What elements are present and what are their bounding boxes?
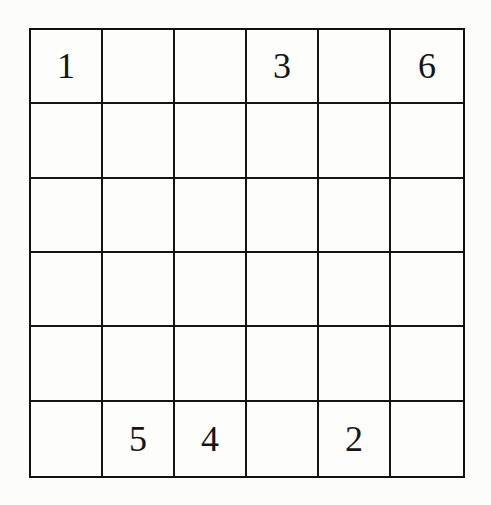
grid-cell-r4-c4[interactable]	[247, 253, 319, 327]
grid-cell-r5-c4[interactable]	[247, 327, 319, 401]
grid-cell-r6-c1[interactable]	[31, 402, 103, 476]
grid-cell-r2-c1[interactable]	[31, 104, 103, 178]
grid-cell-r2-c2[interactable]	[103, 104, 175, 178]
grid-cell-r6-c6[interactable]	[391, 402, 463, 476]
grid-cell-r3-c3[interactable]	[175, 179, 247, 253]
grid-cell-r1-c1[interactable]: 1	[31, 30, 103, 104]
grid-cell-r2-c4[interactable]	[247, 104, 319, 178]
grid-cell-r4-c6[interactable]	[391, 253, 463, 327]
grid-cell-r2-c6[interactable]	[391, 104, 463, 178]
grid-cell-r3-c1[interactable]	[31, 179, 103, 253]
grid-cell-r4-c3[interactable]	[175, 253, 247, 327]
puzzle-grid: 136542	[29, 28, 465, 478]
grid-cell-r3-c5[interactable]	[319, 179, 391, 253]
grid-cell-r5-c3[interactable]	[175, 327, 247, 401]
grid-cell-r6-c2[interactable]: 5	[103, 402, 175, 476]
grid-cell-r2-c5[interactable]	[319, 104, 391, 178]
grid-cell-r1-c4[interactable]: 3	[247, 30, 319, 104]
grid-cell-r5-c6[interactable]	[391, 327, 463, 401]
grid-cell-r2-c3[interactable]	[175, 104, 247, 178]
grid-cell-r6-c4[interactable]	[247, 402, 319, 476]
grid-cell-r4-c5[interactable]	[319, 253, 391, 327]
grid-cell-r3-c2[interactable]	[103, 179, 175, 253]
grid-cell-r5-c1[interactable]	[31, 327, 103, 401]
grid-cell-r6-c3[interactable]: 4	[175, 402, 247, 476]
grid-cell-r1-c2[interactable]	[103, 30, 175, 104]
grid-cell-r4-c2[interactable]	[103, 253, 175, 327]
grid-cell-r4-c1[interactable]	[31, 253, 103, 327]
grid-cell-r1-c5[interactable]	[319, 30, 391, 104]
page: 136542	[0, 0, 491, 505]
grid-cell-r1-c6[interactable]: 6	[391, 30, 463, 104]
grid-cell-r3-c6[interactable]	[391, 179, 463, 253]
grid-cell-r5-c5[interactable]	[319, 327, 391, 401]
grid-cell-r3-c4[interactable]	[247, 179, 319, 253]
grid-cell-r6-c5[interactable]: 2	[319, 402, 391, 476]
grid-cell-r1-c3[interactable]	[175, 30, 247, 104]
grid-cell-r5-c2[interactable]	[103, 327, 175, 401]
